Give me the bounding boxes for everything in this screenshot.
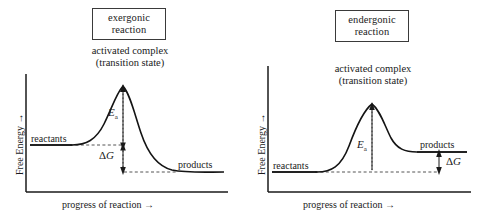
panel-endergonic: endergonic reaction activated complex (t… <box>243 0 485 216</box>
ea-symbol: E <box>108 106 115 118</box>
x-axis-label-exergonic: progress of reaction → <box>62 199 154 210</box>
ea-subscript: a <box>115 113 118 121</box>
label-reactants-endergonic: reactants <box>273 160 309 171</box>
label-activation-energy-exergonic: Ea <box>108 106 118 121</box>
panel-exergonic: exergonic reaction activated complex (tr… <box>0 0 242 216</box>
y-axis-arrow-icon: → <box>14 114 25 124</box>
label-products-endergonic: products <box>420 139 454 150</box>
deltag-arrow-head-up <box>436 149 442 157</box>
label-delta-g-endergonic: ΔG <box>446 155 461 167</box>
x-axis-arrow-icon: → <box>144 199 154 210</box>
label-products-exergonic: products <box>178 159 212 170</box>
deltag-arrow-head-down <box>120 167 126 175</box>
deltag-arrow-head-down <box>436 167 442 175</box>
ea-subscript: a <box>364 145 367 153</box>
y-axis-label-text: Free Energy <box>256 126 267 175</box>
label-activation-energy-endergonic: Ea <box>357 138 367 153</box>
y-axis-label-endergonic: Free Energy → <box>256 114 267 175</box>
y-axis-label-text: Free Energy <box>14 126 25 175</box>
x-axis-label-endergonic: progress of reaction → <box>303 199 395 210</box>
y-axis-label-exergonic: Free Energy → <box>14 114 25 175</box>
x-axis-label-text: progress of reaction <box>62 199 141 210</box>
x-axis-arrow-icon: → <box>385 199 395 210</box>
chart-endergonic <box>243 0 485 216</box>
label-reactants-exergonic: reactants <box>31 133 67 144</box>
g-symbol: G <box>106 149 114 161</box>
label-delta-g-exergonic: ΔG <box>99 149 114 161</box>
chart-exergonic <box>0 0 242 216</box>
y-axis-arrow-icon: → <box>256 114 267 124</box>
ea-symbol: E <box>357 138 364 150</box>
g-symbol: G <box>453 155 461 167</box>
x-axis-label-text: progress of reaction <box>303 199 382 210</box>
